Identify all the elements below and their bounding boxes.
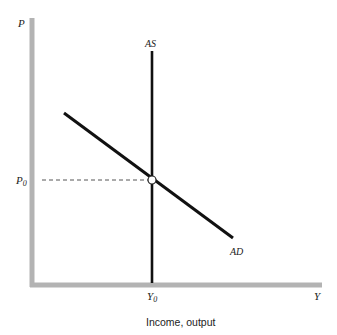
y-axis-label: P	[17, 17, 25, 29]
x-axis-label: Y	[314, 290, 322, 302]
ad-label: AD	[229, 246, 244, 257]
p0-label-sub: 0	[23, 179, 27, 188]
y0-label-sub: 0	[153, 295, 157, 304]
equilibrium-point	[148, 176, 156, 184]
y0-label: Y0	[147, 290, 157, 304]
as-label: AS	[144, 38, 156, 49]
x-axis-caption: Income, output	[146, 316, 216, 328]
p0-label: P0	[15, 174, 27, 188]
ad-curve	[64, 113, 233, 238]
as-ad-diagram: P Y AS AD P0 Y0 Income, output	[0, 0, 337, 335]
